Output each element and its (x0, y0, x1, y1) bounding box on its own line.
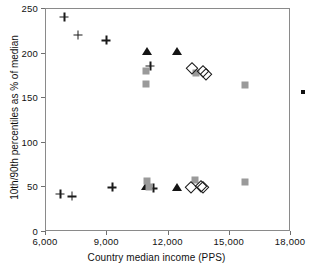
x-axis-tick (290, 231, 291, 235)
y-axis-label: 10th/90th percentiles as % of median (9, 18, 20, 218)
data-point-square (146, 184, 153, 191)
data-point-square (242, 81, 249, 88)
y-axis-tick (41, 186, 45, 187)
y-axis-tick-label: 250 (22, 3, 38, 14)
x-axis-tick-label: 6,000 (33, 236, 58, 247)
data-point-triangle (172, 47, 182, 55)
data-point-plus (60, 13, 69, 22)
data-point-plus (108, 183, 117, 192)
y-axis-tick-label: 100 (22, 136, 38, 147)
data-point-square (143, 68, 150, 75)
y-axis-tick-label: 150 (22, 92, 38, 103)
x-axis-tick-label: 18,000 (275, 236, 305, 247)
y-axis-tick-label: 0 (33, 226, 38, 237)
x-axis-tick-label: 12,000 (152, 236, 182, 247)
x-axis-tick-label: 15,000 (214, 236, 244, 247)
y-axis-tick (41, 231, 45, 232)
data-point-plus (73, 30, 82, 39)
x-axis-tick (45, 231, 46, 235)
y-axis-tick (41, 142, 45, 143)
y-axis-tick-label: 200 (22, 47, 38, 58)
data-point-square (143, 80, 150, 87)
data-points-layer (46, 9, 289, 230)
y-axis-tick-label: 50 (27, 181, 38, 192)
y-axis-tick (41, 53, 45, 54)
data-point-plus (56, 189, 65, 198)
plot-area (45, 8, 290, 231)
data-point-square (242, 179, 249, 186)
y-axis-tick (41, 8, 45, 9)
x-axis-tick (106, 231, 107, 235)
data-point-plus (67, 192, 76, 201)
data-point-triangle (172, 183, 182, 191)
data-point-plus (102, 36, 111, 45)
x-axis-tick (229, 231, 230, 235)
y-axis-tick (41, 97, 45, 98)
scatter-plot-figure: 6,0009,00012,00015,00018,000050100150200… (0, 0, 313, 271)
x-axis-tick-label: 9,000 (94, 236, 119, 247)
data-point-triangle (142, 47, 152, 55)
x-axis-label: Country median income (PPS) (0, 252, 313, 263)
x-axis-tick (168, 231, 169, 235)
stray-dot-marker (301, 90, 305, 94)
